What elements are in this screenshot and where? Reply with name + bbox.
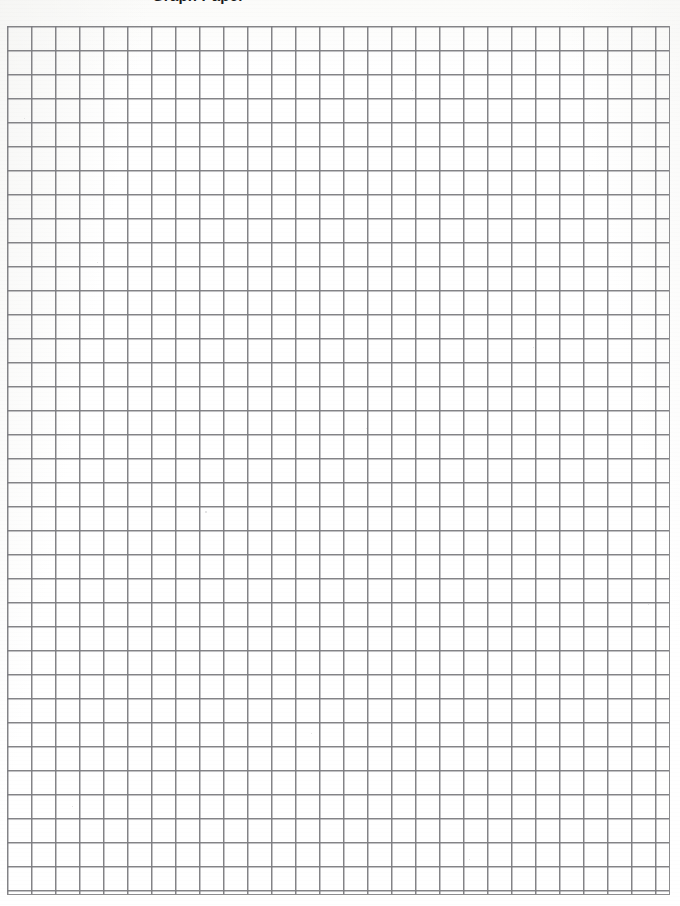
grid-border-bottom: [7, 894, 670, 895]
scanned-page: Graph Paper: [0, 0, 680, 906]
grid-lines: [7, 26, 670, 895]
clipped-heading-text: Graph Paper: [152, 0, 244, 4]
grid-border-right: [669, 26, 670, 895]
graph-paper-grid: [7, 26, 670, 895]
clipped-heading: Graph Paper: [0, 0, 680, 7]
